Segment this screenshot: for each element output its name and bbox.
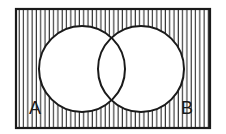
- set-a-label: A: [29, 98, 41, 118]
- venn-diagram: A B: [0, 0, 226, 134]
- set-b-label: B: [181, 98, 193, 118]
